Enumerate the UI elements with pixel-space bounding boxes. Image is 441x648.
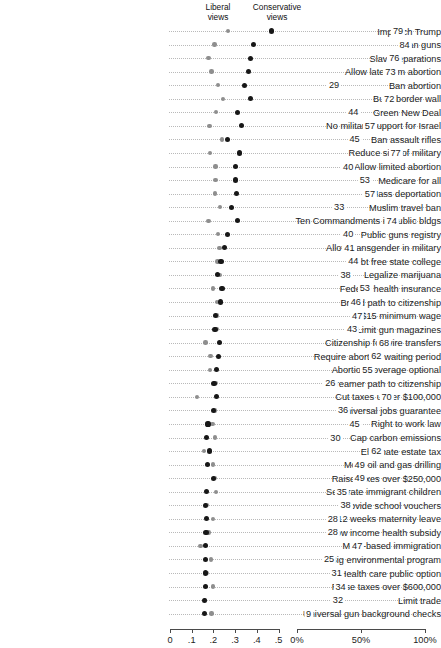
category-label: Muslim travel ban xyxy=(277,203,441,213)
left-axis-line xyxy=(170,629,279,630)
percent-value: 70 xyxy=(379,392,393,402)
conservative-dot xyxy=(214,367,219,372)
category-label: Reduce size of military xyxy=(277,148,441,158)
liberal-dot xyxy=(216,232,220,236)
percent-value: 38 xyxy=(339,270,353,280)
percent-value: 38 xyxy=(339,500,353,510)
liberal-dot xyxy=(209,611,213,615)
conservative-dot xyxy=(225,137,230,142)
conservative-dot xyxy=(211,476,216,481)
category-label: Build border wall xyxy=(277,94,441,104)
category-label: Provide school vouchers xyxy=(277,501,441,511)
liberal-dot xyxy=(195,395,199,399)
liberal-dot xyxy=(211,517,215,521)
percent-value: 29 xyxy=(327,80,341,90)
percent-value: 43 xyxy=(345,324,359,334)
left-axis-tick-label: .1 xyxy=(188,635,196,645)
conservative-dot xyxy=(251,42,256,47)
conservative-dot xyxy=(203,570,208,575)
left-axis-tick xyxy=(170,629,171,633)
conservative-dot xyxy=(217,340,222,345)
conservative-dot xyxy=(203,543,208,548)
conservative-dot xyxy=(233,164,238,169)
liberal-dot xyxy=(214,490,218,494)
liberal-dot xyxy=(212,42,216,46)
liberal-dot xyxy=(207,124,211,128)
conservative-dot xyxy=(207,448,212,453)
category-label: Public guns registry xyxy=(277,230,441,240)
liberal-dot xyxy=(214,110,218,114)
liberal-dot xyxy=(216,83,220,87)
liberal-dot xyxy=(211,584,215,588)
liberal-dot xyxy=(208,368,212,372)
liberal-dot xyxy=(220,137,224,141)
right-axis-tick xyxy=(361,629,362,633)
percent-value: 40 xyxy=(341,162,355,172)
liberal-dot xyxy=(209,557,213,561)
category-label: Low income health subsidy xyxy=(277,528,441,538)
conservative-dot xyxy=(229,205,234,210)
conservative-dot xyxy=(233,177,238,182)
percent-value: 47 xyxy=(350,311,364,321)
category-label: Raise taxes over $600,000 xyxy=(277,582,441,592)
conservative-dot xyxy=(205,462,210,467)
category-label: Mass deportation xyxy=(277,189,441,199)
left-axis-tick xyxy=(192,629,193,633)
left-axis-tick xyxy=(213,629,214,633)
liberal-dot xyxy=(202,449,206,453)
category-label: Legalize marijuana xyxy=(277,270,441,280)
right-axis-tick-label: 50% xyxy=(352,635,370,645)
category-label: Dreamer path to citizenship xyxy=(277,379,441,389)
percent-value: 40 xyxy=(341,229,355,239)
percent-value: 73 xyxy=(383,67,397,77)
percent-value: 45 xyxy=(347,134,361,144)
liberal-dot xyxy=(210,422,214,426)
percent-value: 53 xyxy=(358,283,372,293)
left-axis-tick-label: .4 xyxy=(253,635,261,645)
conservative-dot xyxy=(203,584,208,589)
conservative-dot xyxy=(214,394,219,399)
liberal-dot xyxy=(211,462,215,466)
left-axis-tick-label: .3 xyxy=(231,635,239,645)
category-label: Ban abortion xyxy=(277,81,441,91)
liberal-dot xyxy=(203,340,207,344)
conservative-dot xyxy=(204,435,209,440)
percent-value: 32 xyxy=(331,595,345,605)
liberal-dot xyxy=(208,151,212,155)
percent-value: 68 xyxy=(377,338,391,348)
category-label: Abortion coverage optional xyxy=(277,365,441,375)
percent-value: 62 xyxy=(369,446,383,456)
liberal-dot xyxy=(217,246,221,250)
left-axis-tick-label: 0 xyxy=(167,635,172,645)
percent-value: 33 xyxy=(332,202,346,212)
legend-liberal-line2: views xyxy=(208,12,229,22)
liberal-dot xyxy=(213,164,217,168)
left-axis-tick xyxy=(257,629,258,633)
percent-value: 72 xyxy=(382,94,396,104)
liberal-dot xyxy=(218,205,222,209)
right-axis-tick xyxy=(425,629,426,633)
liberal-dot xyxy=(206,219,210,223)
category-label: Limit trade xyxy=(277,596,441,606)
percent-value: 9 xyxy=(304,609,313,619)
conservative-dot xyxy=(242,83,247,88)
category-label: Universal jobs guarantee xyxy=(277,406,441,416)
liberal-dot xyxy=(213,178,217,182)
percent-value: 49 xyxy=(353,473,367,483)
legend-liberal-line1: Liberal xyxy=(206,2,231,12)
liberal-dot xyxy=(208,354,212,358)
conservative-dot xyxy=(218,259,223,264)
category-label: Allow limited abortion xyxy=(277,162,441,172)
percent-value: 77 xyxy=(388,148,402,158)
percent-value: 79 xyxy=(391,26,405,36)
category-label: Separate immigrant children xyxy=(277,487,441,497)
conservative-dot xyxy=(234,191,239,196)
percent-value: 28 xyxy=(326,514,340,524)
liberal-dot xyxy=(209,69,213,73)
category-label: Ten Commandments in public bldgs xyxy=(277,216,441,226)
conservative-dot xyxy=(248,96,253,101)
conservative-dot xyxy=(239,123,244,128)
conservative-dot xyxy=(225,232,230,237)
conservative-dot xyxy=(204,516,209,521)
category-label: Cut taxes under $100,000 xyxy=(277,392,441,402)
